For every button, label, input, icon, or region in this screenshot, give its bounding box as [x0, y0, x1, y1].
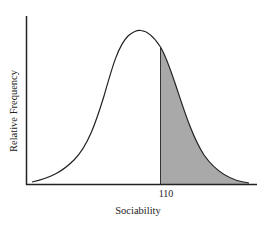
x-tick-label: 110	[159, 188, 174, 199]
shaded-region	[161, 47, 250, 185]
normal-distribution-chart: 110 Sociability Relative Frequency	[0, 0, 270, 226]
y-axis-label: Relative Frequency	[8, 69, 19, 152]
bell-curve	[32, 30, 249, 183]
x-axis-label: Sociability	[115, 205, 161, 216]
